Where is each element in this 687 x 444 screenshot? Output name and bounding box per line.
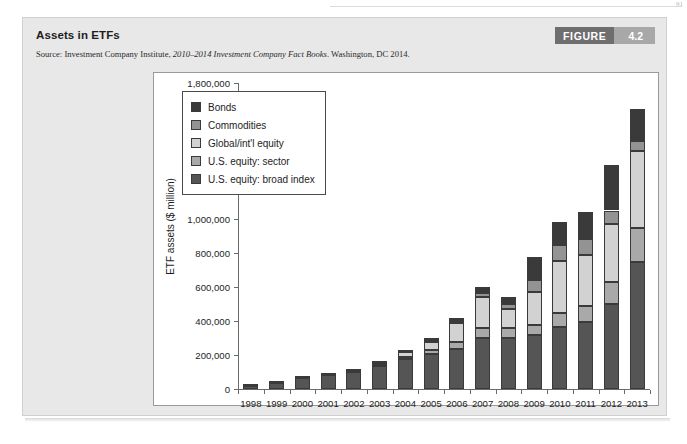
y-axis-tick-label: 1,000,000 [187, 214, 230, 225]
bar-segment [398, 352, 413, 357]
bar-segment [630, 228, 645, 262]
x-axis-tick-label: 2008 [498, 398, 519, 409]
bar-segment [372, 361, 387, 363]
bar-segment [552, 313, 567, 327]
bar-2013 [630, 109, 645, 390]
x-axis-tick-label: 2005 [420, 398, 441, 409]
legend-swatch-icon [191, 156, 201, 166]
bar-segment [501, 338, 516, 389]
bar-segment [424, 350, 439, 354]
bar-segment [578, 255, 593, 306]
bar-segment [243, 384, 258, 386]
bar-segment [604, 224, 619, 282]
x-axis-tick-label: 2004 [395, 398, 416, 409]
bar-segment [475, 297, 490, 328]
bar-segment [527, 292, 542, 325]
bar-2012 [604, 165, 619, 389]
figure-badge: FIGURE 4.2 [555, 27, 655, 44]
legend-item[interactable]: U.S. equity: sector [191, 152, 315, 170]
bar-segment [501, 297, 516, 303]
bar-segment [604, 282, 619, 304]
legend-swatch-icon [191, 102, 201, 112]
figure-panel: Assets in ETFs Source: Investment Compan… [22, 17, 667, 416]
legend-item-label: U.S. equity: broad index [208, 174, 315, 185]
bar-segment [424, 342, 439, 351]
bar-segment [449, 349, 464, 389]
x-axis-tick-label: 2011 [575, 398, 596, 409]
bar-segment [449, 342, 464, 349]
x-axis-tick [315, 390, 316, 394]
bar-segment [604, 211, 619, 225]
bar-segment [449, 321, 464, 323]
bar-segment [527, 257, 542, 280]
x-axis-tick-label: 2006 [446, 398, 467, 409]
bar-segment [398, 359, 413, 389]
bar-segment [527, 335, 542, 389]
bar-segment [552, 245, 567, 260]
legend-item-label: Global/int'l equity [208, 138, 284, 149]
x-axis-tick [444, 390, 445, 394]
bar-2008 [501, 297, 516, 389]
bar-segment [475, 328, 490, 338]
x-axis-tick [418, 390, 419, 394]
x-axis-tick-label: 2001 [317, 398, 338, 409]
figure-title: Assets in ETFs [36, 29, 120, 41]
x-axis-tick [290, 390, 291, 394]
bar-segment [449, 323, 464, 342]
y-axis-tick-label: 200,000 [195, 350, 230, 361]
bar-segment [630, 151, 645, 228]
x-axis-tick [341, 390, 342, 394]
legend-swatch-icon [191, 120, 201, 130]
x-axis-tick [650, 390, 651, 394]
x-axis-tick [367, 390, 368, 394]
figure-badge-word: FIGURE [555, 27, 614, 44]
page-top-rule [330, 6, 682, 7]
x-axis-tick-label: 2013 [626, 398, 647, 409]
x-axis-tick-label: 1999 [266, 398, 287, 409]
source-prefix: Source: Investment Company Institute, [36, 49, 171, 59]
bar-segment [475, 338, 490, 389]
bar-segment [527, 325, 542, 335]
bar-2011 [578, 212, 593, 389]
x-axis-tick [264, 390, 265, 394]
figure-badge-number: 4.2 [614, 27, 655, 44]
y-axis-tick [234, 355, 238, 356]
bar-segment [552, 222, 567, 245]
x-axis-tick [238, 390, 239, 394]
panel-shadow [25, 418, 670, 422]
y-axis-tick-label: 400,000 [195, 316, 230, 327]
y-axis-tick [234, 219, 238, 220]
bar-2010 [552, 222, 567, 389]
legend-item[interactable]: Commodities [191, 116, 315, 134]
legend-item-label: Bonds [208, 102, 236, 113]
y-axis-tick [234, 253, 238, 254]
bar-1998 [243, 386, 258, 389]
bar-2001 [321, 375, 336, 389]
legend-item[interactable]: Global/int'l equity [191, 134, 315, 152]
y-axis-tick [234, 321, 238, 322]
bar-segment [424, 338, 439, 341]
source-suffix: . Washington, DC 2014. [327, 49, 410, 59]
bar-2007 [475, 287, 490, 389]
bar-2000 [295, 377, 310, 389]
legend-item[interactable]: U.S. equity: broad index [191, 170, 315, 188]
bar-1999 [269, 383, 284, 389]
bar-segment [552, 327, 567, 389]
x-axis-tick-label: 2002 [343, 398, 364, 409]
stacked-bar-chart: ETF assets ($ million) 0200,000400,00060… [154, 73, 660, 407]
bar-segment [630, 141, 645, 151]
bar-segment [346, 372, 361, 389]
bar-segment [424, 354, 439, 389]
legend-item[interactable]: Bonds [191, 98, 315, 116]
bar-segment [475, 293, 490, 298]
bar-segment [552, 261, 567, 314]
x-axis-tick-label: 2010 [549, 398, 570, 409]
bar-segment [295, 378, 310, 389]
x-axis-tick-label: 2012 [601, 398, 622, 409]
bar-segment [321, 375, 336, 389]
bar-segment [398, 357, 413, 360]
legend-item-label: U.S. equity: sector [208, 156, 290, 167]
bar-segment [243, 386, 258, 389]
bar-segment [630, 262, 645, 390]
y-axis-tick-label: 800,000 [195, 248, 230, 259]
